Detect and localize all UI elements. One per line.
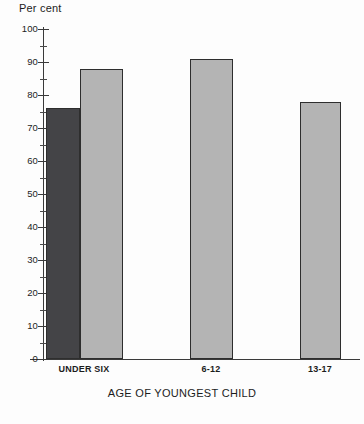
- y-tick-label: 0: [33, 353, 38, 364]
- y-tick-label: 60: [27, 155, 38, 166]
- y-tick-label: 70: [27, 122, 38, 133]
- y-tick-label: 100: [22, 23, 38, 34]
- bar: [190, 59, 233, 359]
- y-tick-mark: [38, 29, 49, 30]
- category-label: UNDER SIX: [59, 364, 110, 374]
- y-tick-minor: [40, 79, 47, 80]
- category-label: 6-12: [202, 364, 221, 374]
- y-tick-label: 40: [27, 221, 38, 232]
- plot-area: 1009080706050403020100 UNDER SIX6-1213-1…: [0, 0, 364, 424]
- bar-chart: Per cent 1009080706050403020100 UNDER SI…: [0, 0, 364, 424]
- y-tick-label: 90: [27, 56, 38, 67]
- y-tick-label: 10: [27, 320, 38, 331]
- y-tick-label: 30: [27, 254, 38, 265]
- bar: [300, 102, 341, 359]
- x-axis-title: AGE OF YOUNGEST CHILD: [0, 387, 364, 399]
- category-label: 13-17: [308, 364, 332, 374]
- bar: [46, 108, 80, 359]
- y-tick-mark: [38, 359, 49, 360]
- x-axis-line: [30, 359, 360, 360]
- y-tick-mark: [38, 95, 49, 96]
- y-tick-minor: [40, 46, 47, 47]
- y-tick-label: 20: [27, 287, 38, 298]
- y-tick-mark: [38, 62, 49, 63]
- bar: [80, 69, 123, 359]
- y-tick-label: 80: [27, 89, 38, 100]
- y-tick-label: 50: [27, 188, 38, 199]
